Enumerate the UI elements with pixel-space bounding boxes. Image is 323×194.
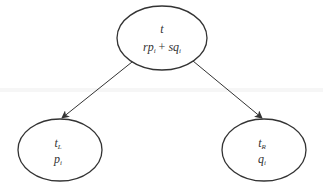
- node-left: tL pi: [18, 119, 102, 181]
- node-left-value: pi: [53, 152, 62, 167]
- tree-diagram: t rpi + sqi tL pi tR qi: [0, 0, 323, 194]
- scan-band: [0, 88, 323, 92]
- node-root: t rpi + sqi: [117, 6, 207, 70]
- node-root-label: t: [160, 22, 164, 36]
- node-left-label: tL: [54, 136, 61, 151]
- node-right-label: tR: [258, 136, 266, 151]
- node-root-ellipse: [117, 6, 207, 70]
- node-root-expression: rpi + sqi: [143, 40, 181, 55]
- node-right: tR qi: [222, 119, 306, 181]
- node-right-value: qi: [258, 152, 266, 167]
